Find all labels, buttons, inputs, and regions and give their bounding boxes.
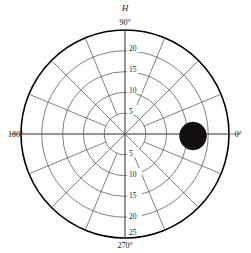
radial-tick-labels-lower: 5 10 15 20 25 (127, 147, 142, 237)
radial-label-up-15: 15 (129, 65, 137, 74)
spoke-225deg (52, 134, 126, 208)
radial-label-dn-10: 10 (129, 170, 137, 179)
angle-label-180: 180° (8, 130, 23, 139)
radial-label-dn-5: 5 (129, 149, 133, 158)
spoke-157p5deg (29, 94, 106, 126)
radial-label-up-10: 10 (129, 86, 137, 95)
radial-label-up-20: 20 (129, 44, 137, 53)
polar-plot-svg: 20 15 10 5 5 10 15 20 25 90° 0° 270° 180… (0, 0, 251, 253)
radial-label-dn-20: 20 (129, 212, 137, 221)
data-marker-blob (180, 122, 207, 150)
radial-label-up-5: 5 (129, 107, 133, 116)
spoke-247p5deg (85, 153, 117, 230)
radial-tick-labels-upper: 20 15 10 5 (127, 42, 142, 116)
radial-label-dn-25: 25 (129, 228, 137, 237)
spoke-135deg (52, 61, 126, 135)
radial-label-dn-15: 15 (129, 191, 137, 200)
spoke-112p5deg (85, 38, 117, 115)
chart-title: H (121, 3, 129, 13)
angle-label-270: 270° (117, 241, 132, 250)
spoke-337p5deg (144, 142, 221, 174)
spoke-202p5deg (29, 142, 106, 174)
spoke-22p5deg (144, 94, 221, 126)
polar-chart-figure: 20 15 10 5 5 10 15 20 25 90° 0° 270° 180… (0, 0, 251, 253)
angle-label-90: 90° (119, 18, 130, 27)
angle-label-0: 0° (235, 130, 242, 139)
